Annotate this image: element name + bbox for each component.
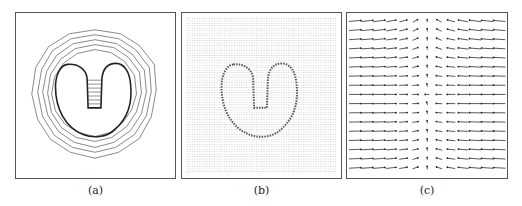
panel-b-vector-grid	[181, 12, 342, 179]
contour-lines-graphic	[16, 13, 175, 178]
panel-c-arrow-field	[346, 12, 508, 179]
dense-vector-field-graphic	[182, 13, 341, 178]
panel-a-contour-plot	[15, 12, 176, 179]
arrow-vector-field-graphic	[347, 13, 507, 178]
caption-a: (a)	[15, 184, 176, 197]
caption-b: (b)	[181, 184, 342, 197]
caption-c: (c)	[346, 184, 508, 197]
